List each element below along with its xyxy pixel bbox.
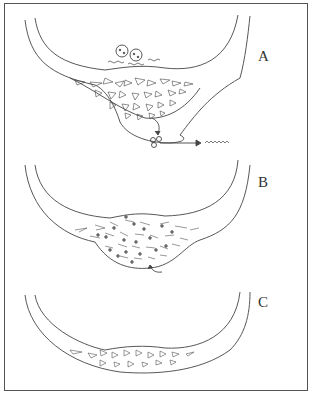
panel-c-structure bbox=[25, 292, 250, 373]
panel-label-c: C bbox=[258, 294, 268, 311]
panel-b-structure bbox=[25, 160, 250, 268]
panel-b-dotted-cells bbox=[97, 216, 174, 264]
panel-a-structure bbox=[25, 15, 250, 143]
panel-label-a: A bbox=[258, 48, 269, 65]
panel-label-b: B bbox=[258, 174, 268, 191]
panel-a-cells bbox=[108, 45, 160, 65]
